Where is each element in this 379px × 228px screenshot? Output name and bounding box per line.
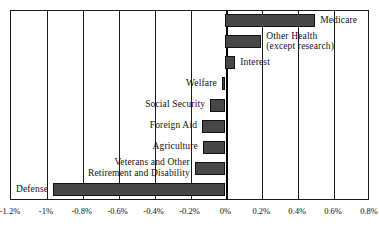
x-tick-label: 0% [220, 206, 231, 216]
x-tick-label: 0.6% [324, 206, 342, 216]
x-tick-label: 0.2% [252, 206, 270, 216]
gridline [334, 11, 335, 199]
category-label-line: Retirement and Disability [88, 168, 190, 179]
gridline [47, 11, 48, 199]
category-label-line: (except research) [266, 41, 334, 52]
gridline [83, 11, 84, 199]
x-tick-label: 0.8% [360, 206, 378, 216]
category-label-line: Interest [240, 57, 270, 68]
zero-gridline [226, 11, 228, 199]
category-label-interest: Interest [240, 57, 270, 68]
bar-chart: MedicareOther Health(except research)Int… [0, 0, 379, 228]
category-label-line: Foreign Aid [150, 120, 197, 131]
x-axis: -1.2%-1%-0.8%-0.6%-0.4%-0.2%0%0.2%0.4%0.… [0, 202, 379, 222]
category-label-agriculture: Agriculture [153, 141, 198, 152]
gridline [262, 11, 263, 199]
x-tick-label: 0.4% [288, 206, 306, 216]
x-tick-label: -0.4% [143, 206, 164, 216]
category-label-line: Medicare [320, 15, 357, 26]
category-label-veterans-and-other-retirement-and-disability: Veterans and OtherRetirement and Disabil… [88, 157, 190, 178]
category-label-foreign-aid: Foreign Aid [150, 120, 197, 131]
x-tick-label: -1.2% [0, 206, 20, 216]
category-label-other-health-except-research: Other Health(except research) [266, 31, 334, 52]
category-label-medicare: Medicare [320, 15, 357, 26]
category-label-line: Social Security [145, 99, 205, 110]
x-tick-label: -1% [39, 206, 53, 216]
x-tick-label: -0.2% [179, 206, 200, 216]
category-label-social-security: Social Security [145, 99, 205, 110]
x-tick-label: -0.6% [107, 206, 128, 216]
x-tick-label: -0.8% [72, 206, 93, 216]
category-label-defense: Defense [16, 184, 48, 195]
category-label-line: Defense [16, 184, 48, 195]
category-label-line: Welfare [186, 78, 217, 89]
category-label-line: Agriculture [153, 141, 198, 152]
category-label-welfare: Welfare [186, 78, 217, 89]
category-label-line: Other Health [266, 31, 334, 42]
category-label-line: Veterans and Other [88, 157, 190, 168]
